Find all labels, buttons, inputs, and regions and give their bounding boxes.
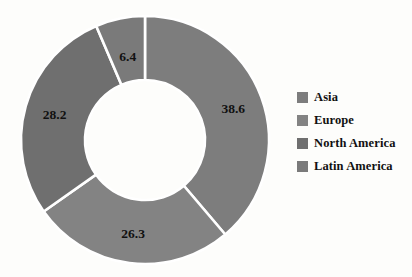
legend-item-label: Asia [314, 90, 338, 105]
slice-value-label: 38.6 [221, 101, 245, 116]
slice-value-label: 26.3 [121, 226, 145, 241]
legend-item[interactable]: Latin America [297, 155, 409, 178]
legend-swatch-icon [297, 92, 308, 103]
legend-swatch-icon [297, 115, 308, 126]
legend-item-label: North America [314, 136, 395, 151]
legend-item-label: Latin America [314, 159, 393, 174]
legend-item-label: Europe [314, 113, 354, 128]
slice-value-label: 28.2 [43, 107, 67, 122]
donut-slice [21, 26, 121, 211]
slice-value-label: 6.4 [119, 49, 136, 64]
donut-svg: 38.626.328.26.4 [0, 0, 290, 277]
donut-chart: 38.626.328.26.4 AsiaEuropeNorth AmericaL… [0, 0, 412, 277]
legend-item[interactable]: North America [297, 132, 409, 155]
chart-legend: AsiaEuropeNorth AmericaLatin America [297, 86, 409, 178]
legend-swatch-icon [297, 138, 308, 149]
legend-swatch-icon [297, 161, 308, 172]
legend-item[interactable]: Asia [297, 86, 409, 109]
legend-item[interactable]: Europe [297, 109, 409, 132]
donut-plot-area: 38.626.328.26.4 [0, 0, 290, 277]
donut-slices [21, 16, 269, 264]
